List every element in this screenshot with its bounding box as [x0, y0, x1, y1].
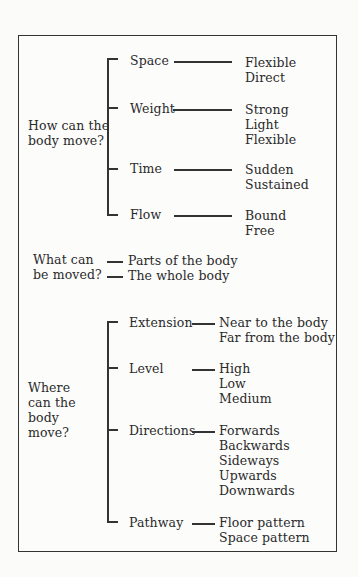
- question-where-line3: body: [28, 410, 59, 426]
- item-far-body: Far from the body: [219, 330, 335, 346]
- tick-level: [107, 367, 118, 369]
- item-bound: Bound: [245, 208, 286, 224]
- connector-flow: [174, 215, 232, 217]
- tick-time: [107, 168, 118, 170]
- item-light: Light: [245, 117, 279, 133]
- connector-extension: [192, 323, 215, 325]
- item-forwards: Forwards: [219, 423, 280, 439]
- connector-directions: [192, 431, 215, 433]
- item-space-pattern: Space pattern: [219, 530, 310, 546]
- branch-whole-body: The whole body: [128, 268, 229, 284]
- question-where-line1: Where: [28, 380, 70, 396]
- branch-pathway: Pathway: [129, 515, 183, 531]
- bracket-how: [107, 58, 109, 215]
- tick-weight: [107, 107, 118, 109]
- branch-parts-of-body: Parts of the body: [128, 253, 238, 269]
- item-downwards: Downwards: [219, 483, 295, 499]
- diagram-frame: [18, 35, 337, 552]
- item-upwards: Upwards: [219, 468, 277, 484]
- item-strong: Strong: [245, 102, 289, 118]
- item-near-body: Near to the body: [219, 315, 328, 331]
- item-direct: Direct: [245, 70, 285, 86]
- item-high: High: [219, 361, 250, 377]
- branch-weight: Weight: [130, 101, 175, 117]
- item-free: Free: [245, 223, 275, 239]
- question-what-line2: be moved?: [33, 267, 102, 283]
- branch-level: Level: [129, 361, 164, 377]
- branch-time: Time: [130, 161, 162, 177]
- question-where-line4: move?: [28, 425, 69, 441]
- connector-parts: [107, 261, 123, 263]
- branch-extension: Extension: [129, 315, 193, 331]
- item-medium: Medium: [219, 391, 272, 407]
- item-sideways: Sideways: [219, 453, 279, 469]
- connector-weight: [173, 109, 232, 111]
- item-sustained: Sustained: [245, 177, 309, 193]
- item-floor-pattern: Floor pattern: [219, 515, 305, 531]
- tick-extension: [107, 321, 118, 323]
- item-backwards: Backwards: [219, 438, 290, 454]
- branch-flow: Flow: [130, 207, 161, 223]
- question-where-line2: can the: [28, 395, 76, 411]
- branch-directions: Directions: [129, 423, 195, 439]
- connector-level: [192, 369, 215, 371]
- bracket-where: [107, 321, 109, 523]
- connector-pathway: [192, 523, 215, 525]
- item-low: Low: [219, 376, 246, 392]
- connector-space: [174, 61, 232, 63]
- item-sudden: Sudden: [245, 162, 294, 178]
- item-flexible-2: Flexible: [245, 132, 296, 148]
- connector-whole: [107, 276, 123, 278]
- tick-pathway: [107, 521, 118, 523]
- tick-space: [107, 58, 118, 60]
- question-what-line1: What can: [33, 252, 94, 268]
- connector-time: [174, 169, 232, 171]
- question-how-line2: body move?: [28, 133, 104, 149]
- tick-directions: [107, 429, 118, 431]
- tick-flow: [107, 214, 118, 216]
- item-flexible: Flexible: [245, 55, 296, 71]
- branch-space: Space: [130, 53, 169, 69]
- question-how-line1: How can the: [28, 118, 109, 134]
